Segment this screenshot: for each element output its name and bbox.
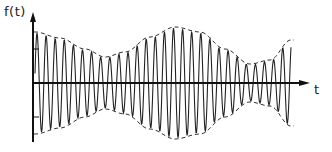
x-axis-arrow-icon bbox=[299, 80, 310, 86]
y-axis-arrow-icon bbox=[30, 12, 36, 22]
lower-envelope bbox=[34, 102, 294, 139]
x-axis-label: t bbox=[314, 82, 319, 97]
y-axis-label: f(t) bbox=[4, 4, 26, 19]
am-signal-diagram bbox=[0, 0, 332, 152]
